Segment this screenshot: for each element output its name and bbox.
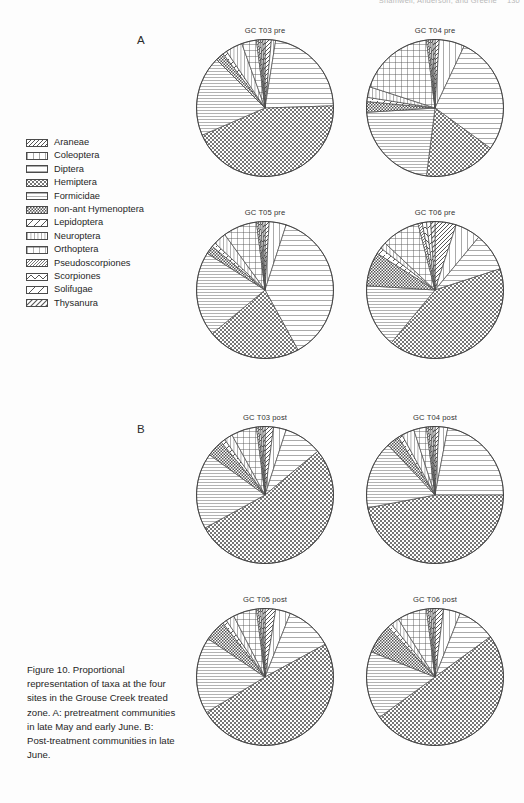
running-header-text: Shamwell, Anderson, and Greene <box>379 0 497 5</box>
pie-chart-graphic <box>195 220 335 360</box>
pie-chart-title: GC T06 pre <box>365 208 505 217</box>
legend-item-label: Coleoptera <box>54 151 99 160</box>
pie-slice <box>265 40 333 108</box>
legend-item: Diptera <box>26 163 176 176</box>
pie-chart-graphic <box>195 38 335 178</box>
legend-swatch-icon <box>26 246 48 254</box>
legend-item: Lepidoptera <box>26 216 176 229</box>
legend-swatch-icon <box>26 152 48 160</box>
legend-item-label: Pseudoscorpiones <box>54 259 131 268</box>
legend-swatch-icon <box>26 232 48 240</box>
legend-item: non-ant Hymenoptera <box>26 203 176 216</box>
pie-chart-title: GC T04 pre <box>365 26 505 35</box>
pie-chart-graphic <box>365 38 505 178</box>
legend-item: Thysanura <box>26 297 176 310</box>
legend-swatch-icon <box>26 219 48 227</box>
legend-item: Pseudoscorpiones <box>26 257 176 270</box>
legend: AraneaeColeopteraDipteraHemipteraFormici… <box>26 136 176 310</box>
legend-swatch-icon <box>26 286 48 294</box>
legend-swatch-icon <box>26 179 48 187</box>
pie-chart-title: GC T06 post <box>365 595 505 604</box>
pie-chart-graphic <box>365 607 505 747</box>
running-header: Shamwell, Anderson, and Greene130 <box>330 0 520 9</box>
pie-chart-graphic <box>365 220 505 360</box>
legend-swatch-icon <box>26 299 48 307</box>
legend-swatch-icon <box>26 139 48 147</box>
legend-item-label: Solifugae <box>54 285 93 294</box>
legend-item: Coleoptera <box>26 149 176 162</box>
pie-slice <box>368 495 504 564</box>
legend-item-label: Diptera <box>54 165 84 174</box>
legend-item-label: Scorpiones <box>54 272 101 281</box>
legend-item: Hemiptera <box>26 176 176 189</box>
legend-swatch-icon <box>26 192 48 200</box>
legend-item-label: Araneae <box>54 138 89 147</box>
figure-page: Shamwell, Anderson, and Greene130 A B <box>0 0 524 803</box>
pie-chart-title: GC T03 post <box>195 413 335 422</box>
legend-item: Orthoptera <box>26 243 176 256</box>
panel-letter-a: A <box>137 34 145 46</box>
panel-letter-b: B <box>137 423 145 435</box>
running-header-page-number: 130 <box>507 0 520 5</box>
pie-slice <box>367 108 435 176</box>
legend-item-label: non-ant Hymenoptera <box>54 205 144 214</box>
pie-chart-title: GC T05 pre <box>195 208 335 217</box>
figure-caption: Figure 10. Proportional representation o… <box>27 663 177 762</box>
pie-chart-graphic <box>365 425 505 565</box>
legend-item: Neuroptera <box>26 230 176 243</box>
pie-chart-title: GC T05 post <box>195 595 335 604</box>
legend-swatch-icon <box>26 273 48 281</box>
pie-chart-title: GC T04 post <box>365 413 505 422</box>
pie-chart-title: GC T03 pre <box>195 26 335 35</box>
legend-item-label: Formicidae <box>54 192 100 201</box>
legend-item: Formicidae <box>26 190 176 203</box>
legend-item: Solifugae <box>26 283 176 296</box>
legend-item-label: Neuroptera <box>54 232 101 241</box>
pie-chart-graphic <box>195 607 335 747</box>
legend-swatch-icon <box>26 259 48 267</box>
legend-item-label: Lepidoptera <box>54 218 103 227</box>
legend-swatch-icon <box>26 165 48 173</box>
legend-item-label: Hemiptera <box>54 178 97 187</box>
legend-item: Scorpiones <box>26 270 176 283</box>
legend-item-label: Thysanura <box>54 299 98 308</box>
legend-item: Araneae <box>26 136 176 149</box>
legend-item-label: Orthoptera <box>54 245 98 254</box>
legend-swatch-icon <box>26 206 48 214</box>
pie-chart-graphic <box>195 425 335 565</box>
